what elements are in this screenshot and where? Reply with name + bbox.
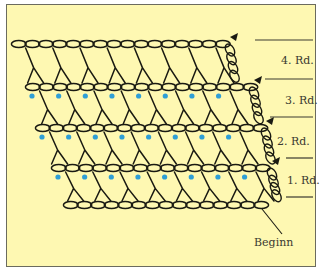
marker-dot (93, 134, 98, 139)
marker-dot (189, 174, 194, 179)
chain-stitch (53, 83, 68, 90)
chain-stitch (147, 40, 162, 47)
chain-stitch (216, 83, 231, 90)
chain-stitch (93, 40, 108, 47)
marker-dot (109, 93, 114, 98)
chain-stitch (160, 164, 175, 171)
double-crochet-stitch (80, 48, 98, 83)
round-label: 2. Rd. (277, 135, 310, 148)
start-pointer-line (262, 209, 282, 234)
chain-stitch (120, 40, 135, 47)
chain-stitch (171, 124, 186, 131)
marker-dot (136, 93, 141, 98)
chain-stitch (103, 124, 118, 131)
chain-stitch (92, 164, 107, 171)
chain-stitch (90, 124, 105, 131)
double-crochet-stitch (256, 172, 274, 201)
chain-stitch (104, 201, 119, 208)
chain-stitch (185, 124, 200, 131)
round-chain (25, 83, 257, 90)
marker-dot (215, 174, 220, 179)
crochet-diagram: 4. Rd.3. Rd.2. Rd.1. Rd.Beginn (0, 0, 322, 272)
marker-dot (56, 93, 61, 98)
marker-dot (189, 93, 194, 98)
marker-dot (226, 134, 231, 139)
chain-stitch (242, 164, 257, 171)
direction-arrow-icon (230, 33, 238, 41)
chain-stitch (186, 201, 201, 208)
chain-stitch (201, 164, 216, 171)
chain-stitch (35, 124, 50, 131)
chain-stitch (161, 83, 176, 90)
chain-stitch (11, 40, 26, 47)
round-chain (51, 164, 270, 171)
marker-dot (199, 134, 204, 139)
chain-stitch (52, 40, 67, 47)
chain-stitch (229, 83, 244, 90)
chain-stitch (63, 124, 78, 131)
chain-stitch (39, 83, 54, 90)
chain-stitch (172, 201, 187, 208)
chain-stitch (202, 40, 217, 47)
marker-dot (163, 93, 168, 98)
chain-stitch (107, 83, 122, 90)
chain-stitch (39, 40, 54, 47)
double-crochet-stitch (50, 132, 68, 164)
double-crochet-stitch (107, 48, 125, 83)
chain-stitch (213, 201, 228, 208)
chain-stitch (131, 201, 146, 208)
marker-dot (146, 134, 151, 139)
marker-dot (109, 174, 114, 179)
chain-stitch (79, 164, 94, 171)
chain-stitch (199, 201, 214, 208)
chain-stitch (65, 164, 80, 171)
chain-stitch (239, 124, 254, 131)
marker-dot (82, 174, 87, 179)
chain-stitch (66, 83, 81, 90)
round-chain (35, 124, 267, 131)
double-crochet-stitch (162, 48, 180, 83)
round-label: 3. Rd. (285, 94, 318, 107)
direction-arrow-icon (266, 117, 274, 125)
chain-stitch (117, 124, 132, 131)
chain-stitch (76, 124, 91, 131)
chain-stitch (25, 83, 40, 90)
chain-stitch (147, 164, 162, 171)
marker-dot (55, 174, 60, 179)
chain-stitch (77, 201, 92, 208)
double-crochet-stitch (93, 172, 111, 201)
double-crochet-stitch (67, 91, 85, 124)
start-label-text: Beginn (254, 236, 293, 249)
chain-stitch (133, 164, 148, 171)
chain-stitch (175, 40, 190, 47)
double-crochet-stitch (230, 91, 248, 124)
chain-stitch (91, 201, 106, 208)
chain-stitch (134, 40, 149, 47)
marker-dot (119, 134, 124, 139)
chain-stitch (119, 164, 134, 171)
double-crochet-stitch (94, 91, 112, 124)
round-label: 4. Rd. (281, 54, 314, 67)
chain-stitch (254, 201, 269, 208)
chain-stitch (63, 201, 78, 208)
chain-stitch (25, 40, 40, 47)
chain-stitch (145, 201, 160, 208)
chain-stitch (93, 83, 108, 90)
chain-stitch (144, 124, 159, 131)
double-crochet-stitch (53, 48, 71, 83)
round-label: 1. Rd. (287, 174, 320, 187)
chain-stitch (199, 124, 214, 131)
double-crochet-stitch (134, 48, 152, 83)
chain-stitch (118, 201, 133, 208)
chain-stitch (174, 164, 189, 171)
marker-dot (216, 93, 221, 98)
chain-stitch (227, 201, 242, 208)
marker-dot (29, 93, 34, 98)
double-crochet-stitch (189, 48, 207, 83)
marker-dot (66, 134, 71, 139)
chain-stitch (79, 40, 94, 47)
foundation-chain (63, 201, 268, 208)
chain-stitch (80, 83, 95, 90)
chain-stitch (228, 164, 243, 171)
chain-stitch (202, 83, 217, 90)
